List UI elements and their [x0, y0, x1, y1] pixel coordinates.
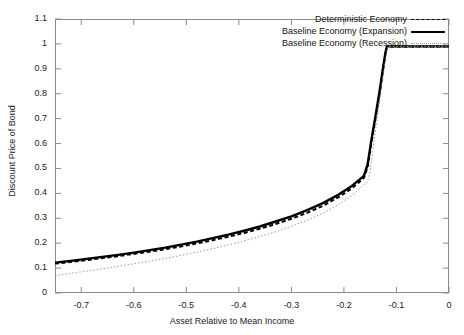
y-tick-label: 1.1 [21, 14, 47, 23]
x-axis-title: Asset Relative to Mean Income [0, 316, 464, 326]
series-line [55, 46, 449, 275]
y-tick-label: 0.5 [21, 163, 47, 172]
y-tick-label: 0.3 [21, 213, 47, 222]
legend-label-deterministic: Deterministic Economy [315, 14, 411, 25]
x-tick-label: -0.4 [219, 301, 259, 310]
y-tick-label: 0.6 [21, 139, 47, 148]
y-tick-label: 0.8 [21, 89, 47, 98]
y-tick-label: 0.4 [21, 188, 47, 197]
series-line [55, 46, 449, 263]
x-tick-label: -0.3 [271, 301, 311, 310]
legend-label-expansion: Baseline Economy (Expansion) [282, 26, 411, 37]
x-tick-label: -0.2 [324, 301, 364, 310]
x-tick-label: -0.6 [114, 301, 154, 310]
chart-legend: Deterministic Economy Baseline Economy (… [245, 14, 445, 50]
x-tick-label: -0.7 [61, 301, 101, 310]
dotted-line-sample [411, 38, 445, 49]
legend-item-recession[interactable]: Baseline Economy (Recession) [245, 38, 445, 49]
y-tick-label: 0 [21, 288, 47, 297]
chart-canvas [0, 0, 464, 335]
y-tick-label: 1 [21, 39, 47, 48]
y-tick-label: 0.9 [21, 64, 47, 73]
chart-container: 00.10.20.30.40.50.60.70.80.911.1 -0.7-0.… [0, 0, 464, 335]
dashed-line-sample [411, 14, 445, 25]
y-axis-title: Discount Price of Bond [7, 91, 17, 211]
y-tick-label: 0.2 [21, 238, 47, 247]
legend-item-expansion[interactable]: Baseline Economy (Expansion) [245, 26, 445, 37]
y-axis-ticks [55, 19, 449, 293]
x-tick-label: -0.1 [376, 301, 416, 310]
y-tick-label: 0.1 [21, 263, 47, 272]
x-tick-label: 0 [429, 301, 464, 310]
x-tick-label: -0.5 [166, 301, 206, 310]
series-lines [55, 46, 449, 275]
y-tick-label: 0.7 [21, 114, 47, 123]
legend-item-deterministic[interactable]: Deterministic Economy [245, 14, 445, 25]
solid-line-sample [411, 26, 445, 37]
legend-label-recession: Baseline Economy (Recession) [282, 38, 411, 49]
